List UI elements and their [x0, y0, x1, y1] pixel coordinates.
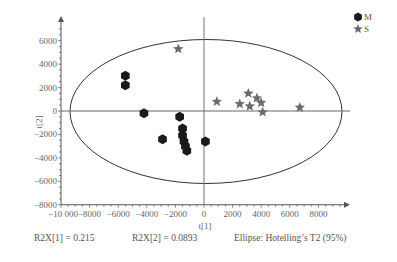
- y-axis-arrow-icon: [58, 16, 64, 22]
- x-tick-label: −8000: [78, 209, 102, 219]
- legend-star-icon: [353, 24, 363, 33]
- axes: 6000400020000−2000−4000−6000−8000−10 000…: [34, 16, 350, 231]
- x-tick-label: 2000: [224, 209, 243, 219]
- y-tick-label: 6000: [39, 36, 58, 46]
- star-marker-icon: [295, 102, 305, 112]
- y-tick-label: 2000: [39, 83, 58, 93]
- star-marker-icon: [173, 43, 183, 53]
- x-tick-label: −2000: [164, 209, 188, 219]
- x-tick-label: 6000: [281, 209, 300, 219]
- y-tick-label: −4000: [34, 153, 58, 163]
- star-marker-icon: [212, 96, 222, 106]
- x-tick-label: 4000: [252, 209, 271, 219]
- legend-hexagon-icon: [354, 13, 362, 22]
- y-tick-label: 4000: [39, 59, 58, 69]
- x-axis-title: t[1]: [199, 221, 212, 231]
- data-points: [121, 43, 305, 155]
- legend: MS: [353, 12, 372, 34]
- x-tick-label: −6000: [107, 209, 131, 219]
- ellipse-label: Ellipse: Hotelling’s T2 (95%): [234, 233, 347, 243]
- star-marker-icon: [243, 88, 253, 98]
- y-axis-title: t[2]: [34, 116, 44, 129]
- hexagon-marker-icon: [140, 108, 149, 118]
- star-marker-icon: [257, 107, 267, 117]
- y-tick-label: 0: [53, 106, 58, 116]
- x-tick-label: 0: [202, 209, 207, 219]
- hexagon-marker-icon: [158, 134, 167, 144]
- hexagon-marker-icon: [121, 71, 130, 81]
- legend-label-m: M: [364, 12, 372, 22]
- star-marker-icon: [235, 98, 245, 108]
- star-marker-icon: [245, 101, 255, 111]
- y-tick-label: −6000: [34, 176, 58, 186]
- legend-label-s: S: [364, 24, 369, 34]
- x-tick-label: −4000: [135, 209, 159, 219]
- hexagon-marker-icon: [121, 80, 130, 90]
- r2x1-label: R2X[1] = 0.215: [34, 233, 95, 243]
- hexagon-marker-icon: [175, 112, 184, 122]
- x-axis-arrow-icon: [344, 202, 350, 208]
- x-tick-label: −10 000: [48, 209, 78, 219]
- y-tick-label: −2000: [34, 129, 58, 139]
- score-plot: 6000400020000−2000−4000−6000−8000−10 000…: [0, 0, 397, 262]
- x-tick-label: 8000: [309, 209, 328, 219]
- r2x2-label: R2X[2] = 0.0893: [132, 233, 197, 243]
- hexagon-marker-icon: [201, 136, 210, 146]
